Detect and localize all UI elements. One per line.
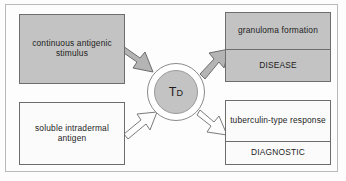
node-tuberculin-diagnostic: tuberculin-type response DIAGNOSTIC: [225, 100, 331, 165]
node-label-diagnostic: DIAGNOSTIC: [226, 141, 330, 164]
node-label-granuloma-formation: granuloma formation: [226, 13, 330, 49]
diagram-canvas: continuous antigenic stimulus soluble in…: [0, 0, 346, 181]
node-label: continuous antigenic stimulus: [20, 15, 124, 83]
hub-inner-disc: TD: [154, 70, 198, 114]
hub-node-td: TD: [147, 63, 205, 121]
node-label-tuberculin-response: tuberculin-type response: [226, 101, 330, 141]
hub-label: TD: [169, 85, 183, 99]
node-label-disease: DISEASE: [226, 49, 330, 81]
node-soluble-intradermal-antigen: soluble intradermal antigen: [19, 102, 125, 165]
hub-label-main: T: [169, 85, 177, 99]
hub-label-subscript: D: [177, 88, 184, 98]
node-label: soluble intradermal antigen: [20, 103, 124, 164]
node-continuous-antigenic-stimulus: continuous antigenic stimulus: [19, 14, 125, 84]
node-granuloma-disease: granuloma formation DISEASE: [225, 12, 331, 82]
